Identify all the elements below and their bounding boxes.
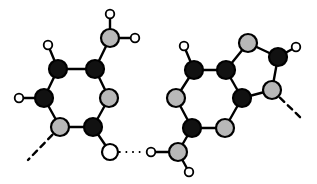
atom-LC — [101, 29, 119, 47]
atom-RO — [147, 148, 156, 157]
atom-R1 — [185, 61, 203, 79]
atom-L6 — [35, 89, 53, 107]
atom-RH3 — [185, 168, 194, 177]
atom-R6 — [167, 89, 185, 107]
atom-R7 — [239, 34, 257, 52]
atom-LH2 — [15, 94, 24, 103]
atom-RC — [169, 143, 187, 161]
atom-L4 — [84, 118, 102, 136]
atom-R4 — [216, 119, 234, 137]
atom-R5 — [183, 119, 201, 137]
atom-R8 — [269, 48, 287, 66]
atom-RH2 — [292, 43, 301, 52]
atom-LH4 — [131, 34, 140, 43]
atom-R2 — [217, 61, 235, 79]
atom-LH1 — [44, 41, 53, 50]
atom-L2 — [86, 60, 104, 78]
atom-R9 — [263, 81, 281, 99]
molecular-structure-figure — [0, 0, 317, 184]
atom-L3 — [100, 89, 118, 107]
atom-LH3 — [106, 10, 115, 19]
molecule-diagram-canvas — [0, 0, 317, 184]
atom-LO — [102, 144, 118, 160]
atom-L1 — [49, 60, 67, 78]
atom-L5 — [51, 118, 69, 136]
atom-RH1 — [180, 42, 189, 51]
atom-R3 — [233, 89, 251, 107]
